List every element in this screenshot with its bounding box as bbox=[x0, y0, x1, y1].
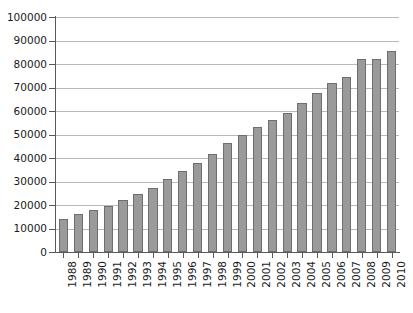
y-axis-tick bbox=[49, 135, 55, 136]
x-axis-tick bbox=[377, 253, 378, 258]
x-axis-tick-label: 1988 bbox=[67, 261, 78, 288]
x-axis-tick-label: 2007 bbox=[351, 261, 362, 288]
x-axis-tick-label: 2001 bbox=[261, 261, 272, 288]
y-axis-tick-label: 30000 bbox=[0, 176, 47, 187]
x-axis-tick bbox=[302, 253, 303, 258]
x-axis-tick bbox=[213, 253, 214, 258]
x-axis-tick-label: 2000 bbox=[246, 261, 257, 288]
y-axis-tick-label: 100000 bbox=[0, 12, 47, 23]
bar bbox=[89, 210, 98, 252]
x-axis-tick bbox=[228, 253, 229, 258]
x-axis-tick bbox=[153, 253, 154, 258]
y-axis-tick bbox=[49, 17, 55, 18]
y-axis-tick-label: 60000 bbox=[0, 106, 47, 117]
x-axis-tick bbox=[63, 253, 64, 258]
bar-chart: 0100002000030000400005000060000700008000… bbox=[0, 0, 413, 313]
x-axis-tick bbox=[183, 253, 184, 258]
bar bbox=[312, 93, 321, 252]
gridline bbox=[56, 17, 399, 18]
bar bbox=[357, 59, 366, 252]
x-axis-tick-label: 1999 bbox=[232, 261, 243, 288]
x-axis-tick-label: 2002 bbox=[276, 261, 287, 288]
y-axis-tick-label: 0 bbox=[0, 247, 47, 258]
x-axis-tick bbox=[198, 253, 199, 258]
bar bbox=[238, 135, 247, 253]
x-axis-tick bbox=[242, 253, 243, 258]
bar bbox=[342, 77, 351, 252]
y-axis-tick-label: 80000 bbox=[0, 59, 47, 70]
y-axis-tick bbox=[49, 205, 55, 206]
x-axis-tick-label: 2005 bbox=[321, 261, 332, 288]
x-axis-tick bbox=[168, 253, 169, 258]
plot-area bbox=[56, 17, 399, 252]
y-axis-tick bbox=[49, 158, 55, 159]
x-axis-tick bbox=[362, 253, 363, 258]
y-axis-tick bbox=[49, 111, 55, 112]
bar bbox=[327, 83, 336, 252]
y-axis-tick-label: 90000 bbox=[0, 35, 47, 46]
bar bbox=[208, 154, 217, 252]
bar bbox=[387, 51, 396, 252]
y-axis-tick-label: 20000 bbox=[0, 200, 47, 211]
x-axis-tick bbox=[108, 253, 109, 258]
y-axis-tick bbox=[49, 64, 55, 65]
x-axis-tick-label: 2004 bbox=[306, 261, 317, 288]
x-axis-tick-label: 2008 bbox=[366, 261, 377, 288]
x-axis-tick bbox=[272, 253, 273, 258]
x-axis-tick bbox=[347, 253, 348, 258]
y-axis-tick-label: 40000 bbox=[0, 153, 47, 164]
bar bbox=[372, 59, 381, 252]
bar bbox=[178, 171, 187, 252]
bar bbox=[268, 120, 277, 252]
x-axis-tick bbox=[392, 253, 393, 258]
y-axis-tick-label: 50000 bbox=[0, 129, 47, 140]
y-axis-tick bbox=[49, 229, 55, 230]
y-axis-tick-label: 70000 bbox=[0, 82, 47, 93]
bar bbox=[193, 163, 202, 252]
x-axis-tick bbox=[138, 253, 139, 258]
x-axis-tick-label: 1991 bbox=[112, 261, 123, 288]
x-axis-tick-label: 2010 bbox=[396, 261, 407, 288]
x-axis-tick bbox=[332, 253, 333, 258]
y-axis-tick bbox=[49, 88, 55, 89]
bar bbox=[118, 200, 127, 252]
bar bbox=[223, 143, 232, 252]
gridline bbox=[56, 41, 399, 42]
bar bbox=[104, 206, 113, 252]
x-axis-tick bbox=[317, 253, 318, 258]
bar bbox=[297, 103, 306, 252]
bar bbox=[133, 194, 142, 252]
x-axis-tick bbox=[93, 253, 94, 258]
x-axis-tick-label: 2006 bbox=[336, 261, 347, 288]
bar bbox=[283, 113, 292, 252]
bar bbox=[253, 127, 262, 252]
x-axis-tick-label: 1995 bbox=[172, 261, 183, 288]
x-axis-tick-label: 2009 bbox=[381, 261, 392, 288]
x-axis-tick bbox=[257, 253, 258, 258]
x-axis-tick bbox=[123, 253, 124, 258]
gridline bbox=[56, 64, 399, 65]
y-axis-tick bbox=[49, 182, 55, 183]
x-axis-tick-label: 1997 bbox=[202, 261, 213, 288]
y-axis-tick bbox=[49, 41, 55, 42]
bar bbox=[163, 179, 172, 252]
x-axis-tick-label: 1996 bbox=[187, 261, 198, 288]
x-axis-tick-label: 1998 bbox=[217, 261, 228, 288]
bar bbox=[59, 219, 68, 252]
x-axis-tick-label: 1990 bbox=[97, 261, 108, 288]
bar bbox=[74, 214, 83, 252]
y-axis-tick-label: 10000 bbox=[0, 223, 47, 234]
x-axis-tick-label: 2003 bbox=[291, 261, 302, 288]
x-axis-tick bbox=[287, 253, 288, 258]
x-axis-tick-label: 1993 bbox=[142, 261, 153, 288]
x-axis-tick-label: 1989 bbox=[82, 261, 93, 288]
y-axis-tick bbox=[49, 252, 55, 253]
x-axis-tick-label: 1994 bbox=[157, 261, 168, 288]
bar bbox=[148, 188, 157, 252]
x-axis-tick bbox=[78, 253, 79, 258]
x-axis-tick-label: 1992 bbox=[127, 261, 138, 288]
